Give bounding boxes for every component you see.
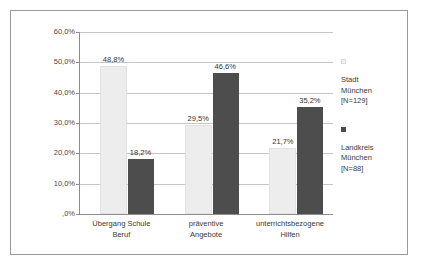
legend-swatch-icon-landkreis-muenchen — [341, 127, 346, 132]
chart-legend: Stadt München [N=129] Landkreis München … — [341, 57, 407, 192]
bar-value-label-stadt-unterrichtsbezogene: 21,7% — [260, 137, 305, 146]
bar-landkreis-muenchen-unterrichtsbezogene-hilfen[interactable] — [297, 107, 323, 214]
y-tick-label-20: 20,0% — [54, 149, 75, 157]
legend-entry-stadt-muenchen[interactable]: Stadt München [N=129] — [341, 57, 407, 107]
legend-swatch-icon-stadt-muenchen — [341, 59, 346, 64]
category-label-uebergang-schule-beruf: Übergang Schule Beruf — [79, 219, 164, 240]
y-tick-label-0: ,0% — [62, 210, 75, 218]
bar-chart: 60,0% 50,0% 40,0% 30,0% 20,0% 10,0% ,0% — [11, 11, 409, 256]
category-label-line-2: Beruf — [79, 230, 164, 241]
bar-stadt-muenchen-uebergang-schule-beruf[interactable] — [100, 66, 127, 214]
bar-value-label-stadt-praeventive: 29,5% — [176, 114, 221, 123]
legend-label-line-1: Landkreis — [341, 143, 407, 154]
y-tick-label-50: 50,0% — [54, 58, 75, 66]
bar-group-praeventive-angebote: 29,5% 46,6% — [164, 32, 249, 214]
bar-value-label-stadt-uebergang: 48,8% — [91, 55, 136, 64]
y-tick-label-10: 10,0% — [54, 180, 75, 188]
legend-label-line-2: München — [341, 153, 407, 164]
bar-group-uebergang-schule-beruf: 48,8% 18,2% — [79, 32, 164, 214]
x-axis-line — [79, 214, 333, 215]
bar-stadt-muenchen-praeventive-angebote[interactable] — [185, 125, 212, 215]
category-label-line-1: präventive — [164, 219, 249, 230]
y-tick-label-40: 40,0% — [54, 89, 75, 97]
bar-landkreis-muenchen-uebergang-schule-beruf[interactable] — [128, 159, 154, 214]
legend-label-landkreis-muenchen: Landkreis München [N=88] — [341, 143, 407, 175]
category-label-line-1: unterrichtsbezogene — [244, 219, 336, 230]
legend-label-stadt-muenchen: Stadt München [N=129] — [341, 75, 407, 107]
y-axis-labels: 60,0% 50,0% 40,0% 30,0% 20,0% 10,0% ,0% — [25, 32, 75, 214]
legend-label-line-3: [N=88] — [341, 164, 407, 175]
bar-group-unterrichtsbezogene-hilfen: 21,7% 35,2% — [248, 32, 333, 214]
bar-value-label-landkreis-unterrichtsbezogene: 35,2% — [287, 96, 332, 105]
legend-label-line-3: [N=129] — [341, 96, 407, 107]
figure-frame: 60,0% 50,0% 40,0% 30,0% 20,0% 10,0% ,0% — [10, 10, 408, 255]
category-label-unterrichtsbezogene-hilfen: unterrichtsbezogene Hilfen — [244, 219, 336, 240]
category-label-line-1: Übergang Schule — [79, 219, 164, 230]
bar-value-label-landkreis-praeventive: 46,6% — [203, 62, 248, 71]
x-axis-category-labels: Übergang Schule Beruf präventive Angebot… — [79, 219, 333, 251]
y-tick-label-60: 60,0% — [54, 28, 75, 36]
y-tick-label-30: 30,0% — [54, 119, 75, 127]
legend-entry-landkreis-muenchen[interactable]: Landkreis München [N=88] — [341, 125, 407, 175]
plot-area: 48,8% 18,2% 29,5% 46,6% 21,7% 35,2% — [79, 32, 333, 214]
legend-label-line-1: Stadt — [341, 75, 407, 86]
bar-landkreis-muenchen-praeventive-angebote[interactable] — [213, 73, 239, 214]
category-label-line-2: Hilfen — [244, 230, 336, 241]
bar-stadt-muenchen-unterrichtsbezogene-hilfen[interactable] — [269, 148, 296, 214]
category-label-line-2: Angebote — [164, 230, 249, 241]
category-label-praeventive-angebote: präventive Angebote — [164, 219, 249, 240]
bar-value-label-landkreis-uebergang: 18,2% — [118, 148, 163, 157]
legend-label-line-2: München — [341, 86, 407, 97]
